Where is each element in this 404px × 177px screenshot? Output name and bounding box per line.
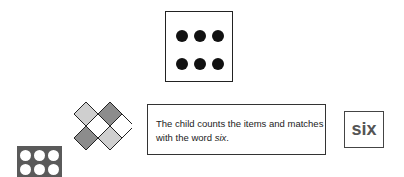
caption-period: . bbox=[226, 132, 229, 143]
dot bbox=[194, 58, 206, 70]
caption-box: The child counts the items and matches w… bbox=[147, 104, 326, 155]
six-hole-frame bbox=[17, 146, 62, 177]
dot bbox=[176, 30, 188, 42]
word-card: six bbox=[344, 111, 384, 148]
dice-card-six-dots bbox=[165, 11, 233, 82]
diamond-tiles-cluster bbox=[70, 100, 132, 156]
dot bbox=[194, 30, 206, 42]
word-card-text: six bbox=[351, 119, 376, 140]
dot bbox=[212, 58, 224, 70]
caption-emphasis: six bbox=[215, 132, 227, 143]
dot bbox=[212, 30, 224, 42]
dot bbox=[176, 58, 188, 70]
caption-text: The child counts the items and matches w… bbox=[156, 118, 323, 143]
